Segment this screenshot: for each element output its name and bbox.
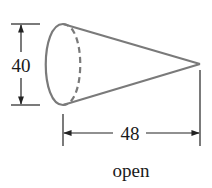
height-label: 48 bbox=[121, 123, 140, 144]
cone-bottom-side bbox=[63, 64, 200, 105]
figure-caption: open bbox=[113, 160, 150, 181]
cone-top-side bbox=[63, 24, 200, 64]
cone-shape bbox=[46, 24, 200, 105]
cone-base-front-arc bbox=[46, 24, 63, 105]
height-dimension: 48 bbox=[63, 70, 200, 146]
cone-diagram: 40 48 open bbox=[0, 0, 212, 188]
diameter-label: 40 bbox=[12, 55, 31, 76]
cone-base-hidden-arc bbox=[63, 24, 80, 105]
diameter-dimension: 40 bbox=[11, 24, 40, 105]
